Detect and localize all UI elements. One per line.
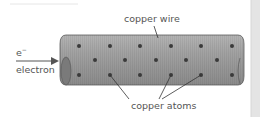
label-copper-atoms: copper atoms <box>131 100 196 111</box>
label-copper-wire: copper wire <box>124 13 180 24</box>
label-electron-symbol: e− <box>16 46 27 58</box>
copper-wire-diagram: copper wire e− electron copper atoms <box>0 0 260 117</box>
wire-left-end <box>61 57 71 85</box>
edge-strip <box>251 0 260 117</box>
label-electron: electron <box>16 64 55 75</box>
